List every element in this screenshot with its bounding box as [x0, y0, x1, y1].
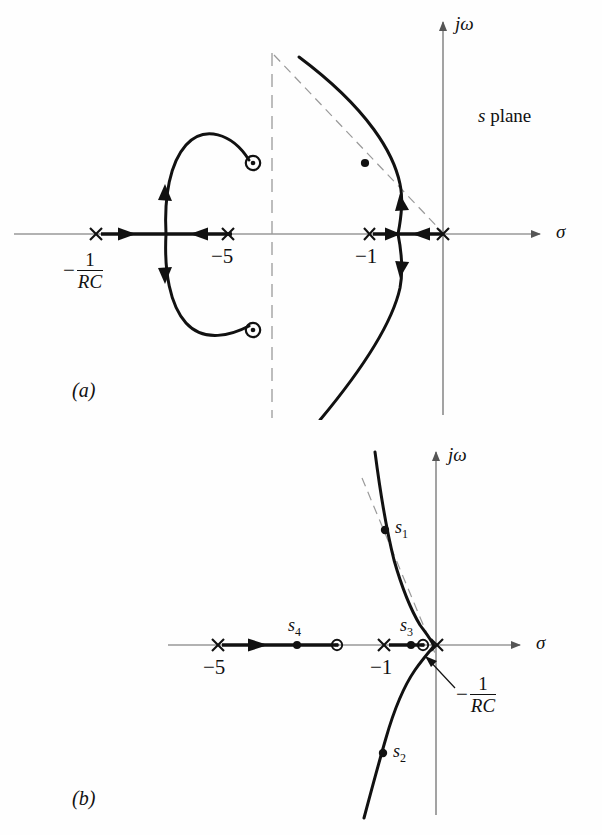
tick-label-minus-1-b: −1: [370, 657, 392, 678]
panel-tag-b: (b): [72, 788, 95, 808]
label-minus-one-over-RC-b: − 1 RC: [456, 674, 496, 716]
s-plane-rest: plane: [485, 105, 531, 126]
fraction-sign-a: −: [63, 260, 75, 281]
point-label-s3: s3: [400, 616, 413, 638]
figure-root: σ jω s plane −5 −1 − 1 RC (a): [0, 0, 602, 835]
fraction-numerator-b: 1: [476, 674, 490, 694]
point-label-s2-sub: 2: [400, 751, 406, 765]
sigma-axis-label-a: σ: [556, 222, 565, 241]
tick-label-minus-5-a: −5: [211, 246, 233, 267]
panel-b: σ jω −5 −1 s1 s2 s3 s4 − 1 RC (b): [0, 420, 602, 835]
root-dot-s2: [379, 749, 387, 757]
tick-label-minus-5-b: −5: [203, 657, 225, 678]
locus-direction-arrows-b: [248, 639, 268, 652]
zero-lower-a: [246, 323, 260, 337]
fraction-denominator-b: RC: [470, 694, 496, 715]
sigma-axis-label-b: σ: [536, 633, 545, 652]
root-dot-s3: [407, 641, 415, 649]
asymptote-dashed-a: [274, 55, 446, 236]
point-label-s2: s2: [393, 742, 406, 764]
fraction-sign-b: −: [456, 684, 468, 705]
point-label-s4-base: s: [288, 615, 295, 635]
jomega-axis-label-b: jω: [448, 445, 467, 464]
closed-loop-root-dots-b: [293, 526, 415, 757]
point-label-s1-base: s: [395, 517, 402, 537]
tick-label-minus-1-a: −1: [355, 246, 377, 267]
point-label-s2-base: s: [393, 741, 400, 761]
point-label-s3-sub: 3: [407, 625, 413, 639]
s-plane-annotation-a: s plane: [478, 106, 531, 125]
jomega-axis-label-a: jω: [455, 14, 474, 33]
fraction-stack-a: 1 RC: [77, 250, 103, 292]
point-label-s4-sub: 4: [295, 625, 301, 639]
point-label-s1-sub: 1: [402, 527, 408, 541]
point-label-s4: s4: [288, 616, 301, 638]
zero-upper-a: [246, 156, 260, 170]
zero-markers-a: [246, 156, 260, 337]
fraction-numerator-a: 1: [83, 250, 97, 270]
point-label-s3-base: s: [400, 615, 407, 635]
panel-a: σ jω s plane −5 −1 − 1 RC (a): [0, 0, 602, 420]
root-dot-s4: [293, 641, 301, 649]
panel-a-plot: [0, 0, 602, 420]
label-minus-one-over-RC-a: − 1 RC: [63, 250, 103, 292]
fraction-denominator-a: RC: [77, 270, 103, 291]
root-dot-s1: [381, 526, 389, 534]
breakaway-dot-a: [361, 159, 369, 167]
point-label-s1: s1: [395, 518, 408, 540]
fraction-stack-b: 1 RC: [470, 674, 496, 716]
leader-line-minus-one-over-RC-b: [425, 656, 455, 688]
panel-tag-a: (a): [72, 380, 95, 400]
